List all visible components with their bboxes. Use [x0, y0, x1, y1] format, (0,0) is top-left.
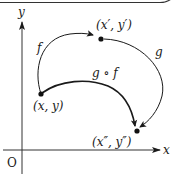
y-axis-label: y: [17, 5, 25, 19]
point-x2-y2: [134, 128, 139, 133]
point-x-y-label: (x, y): [33, 99, 64, 113]
x-axis-label: x: [163, 143, 170, 157]
arrow-f: [38, 33, 93, 94]
point-x1-y1-label: (x′, y′): [96, 18, 132, 32]
frame-border: [0, 0, 172, 3]
arrow-g-label: g: [155, 45, 163, 59]
composition-diagram: y x O f g g ∘ f (x, y) (x′, y′) (x″, y″): [0, 0, 184, 176]
point-x-y: [38, 91, 43, 96]
point-x1-y1: [98, 36, 103, 41]
arrow-g: [104, 39, 163, 127]
point-x2-y2-label: (x″, y″): [92, 135, 132, 149]
arrow-g-compose-f-label: g ∘ f: [92, 66, 120, 80]
origin-label: O: [7, 156, 17, 170]
